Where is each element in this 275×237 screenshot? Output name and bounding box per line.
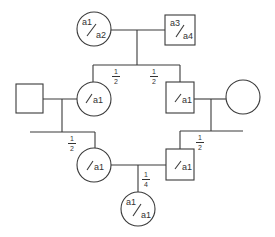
gen2-spouse-right-circle — [226, 80, 260, 114]
probability-daughter-child: 1 2 — [68, 135, 76, 152]
gen2-spouse-left-square — [16, 84, 43, 113]
gen1-female-allele-bottom: a2 — [96, 31, 106, 40]
gen4-allele-top: a1 — [126, 198, 136, 207]
gen1-male-allele-bottom: a4 — [183, 32, 193, 41]
probability-son-child: 1 2 — [196, 134, 204, 151]
gen3-female-allele: a1 — [94, 163, 104, 172]
gen2-daughter-allele: a1 — [93, 96, 103, 105]
gen1-female-allele-top: a1 — [82, 18, 92, 27]
probability-cousins-offspring: 1 4 — [142, 171, 150, 188]
probability-gen1-son: 1 2 — [150, 68, 158, 85]
probability-gen1-daughter: 1 2 — [112, 68, 120, 85]
gen4-allele-bottom: a1 — [141, 211, 151, 220]
gen3-male-allele: a1 — [182, 163, 192, 172]
pedigree-lines — [0, 0, 275, 237]
gen2-son-allele: a1 — [182, 96, 192, 105]
gen1-male-allele-top: a3 — [170, 19, 180, 28]
